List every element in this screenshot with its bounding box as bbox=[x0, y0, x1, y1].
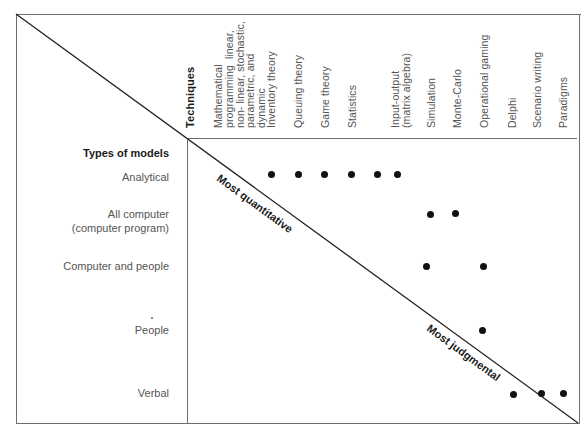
technique-operational-gaming: Operational gaming bbox=[479, 35, 490, 128]
technique-mathematical-programming: Mathematical programming linear, non- li… bbox=[213, 21, 267, 128]
technique-statistics: Statistics bbox=[347, 85, 358, 128]
dot-analytical-statistics bbox=[348, 171, 355, 178]
dot-analytical-input-output-2 bbox=[394, 171, 401, 178]
technique-scenario-writing: Scenario writing bbox=[532, 52, 543, 128]
print-speck bbox=[151, 317, 153, 319]
dot-verbal-paradigms bbox=[560, 390, 567, 397]
dot-verbal-delphi bbox=[510, 391, 517, 398]
model-people: People bbox=[135, 323, 169, 337]
dot-verbal-scenario bbox=[538, 390, 545, 397]
dot-analytical-inventory bbox=[268, 171, 275, 178]
dot-people-gaming bbox=[479, 327, 486, 334]
technique-queuing-theory: Queuing theory bbox=[293, 55, 304, 128]
technique-input-output: Input-output (matrix algebra) bbox=[390, 53, 412, 128]
dot-computer-simulation bbox=[427, 211, 434, 218]
technique-monte-carlo: Monte-Carlo bbox=[452, 69, 463, 128]
technique-paradigms: Paradigms bbox=[558, 77, 569, 128]
dot-computer-people-gaming bbox=[480, 263, 487, 270]
model-verbal: Verbal bbox=[138, 386, 169, 400]
technique-simulation: Simulation bbox=[426, 78, 437, 128]
models-heading: Types of models bbox=[83, 146, 169, 160]
dot-analytical-queuing bbox=[295, 171, 302, 178]
techniques-vs-models-diagram: Techniques Mathematical programming line… bbox=[0, 0, 587, 432]
model-computer-and-people: Computer and people bbox=[63, 259, 169, 273]
dot-analytical-input-output-1 bbox=[374, 171, 381, 178]
model-analytical: Analytical bbox=[122, 170, 169, 184]
techniques-heading: Techniques bbox=[185, 67, 196, 128]
dot-analytical-game bbox=[321, 171, 328, 178]
technique-game-theory: Game theory bbox=[320, 66, 331, 128]
dot-computer-people-simulation bbox=[423, 263, 430, 270]
technique-delphi: Delphi bbox=[507, 98, 518, 128]
model-all-computer: All computer (computer program) bbox=[72, 207, 169, 235]
dot-computer-monte-carlo bbox=[452, 210, 459, 217]
technique-inventory-theory: Inventory theory bbox=[266, 51, 277, 128]
